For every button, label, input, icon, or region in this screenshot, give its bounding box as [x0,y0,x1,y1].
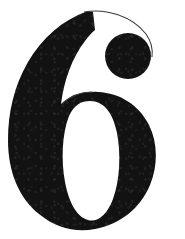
digit-six-glyph [0,0,185,239]
glyph-canvas [0,0,185,239]
six-ball-terminal [105,33,151,79]
